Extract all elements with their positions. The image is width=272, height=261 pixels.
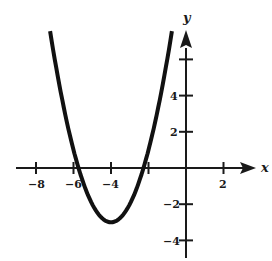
x-axis-label: x (260, 160, 269, 175)
y-axis (179, 30, 193, 258)
y-tick-label-2: 2 (170, 126, 178, 139)
x-tick-label-neg8: −8 (28, 178, 45, 191)
chart: x y −8 −6 −4 2 4 2 −2 −4 (0, 0, 272, 261)
y-tick-label-4: 4 (170, 90, 178, 103)
y-tick-label-neg4: −4 (163, 235, 180, 248)
x-tick-label-2: 2 (219, 178, 227, 191)
parabola-curve (50, 31, 172, 222)
y-axis-arrow-icon (180, 30, 192, 48)
x-tick-label-neg4: −4 (102, 178, 119, 191)
x-tick-label-neg6: −6 (65, 178, 82, 191)
y-tick-label-neg2: −2 (163, 198, 180, 211)
y-axis-label: y (182, 10, 192, 25)
x-axis (16, 162, 256, 174)
